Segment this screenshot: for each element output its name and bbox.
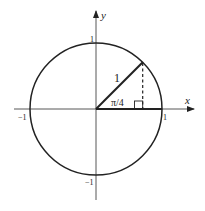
x-axis-label: x — [184, 94, 190, 106]
angle-label: π/4 — [111, 97, 124, 108]
hypotenuse-label: 1 — [114, 71, 120, 85]
right-angle-marker — [135, 101, 143, 109]
tick-x-pos: 1 — [163, 113, 167, 122]
y-axis-label: y — [100, 9, 106, 21]
tick-y-neg: −1 — [85, 178, 94, 187]
unit-circle-diagram: x y 1 −1 1 −1 1 π/4 — [0, 0, 205, 211]
tick-x-neg: −1 — [18, 113, 27, 122]
tick-y-pos: 1 — [90, 35, 94, 44]
